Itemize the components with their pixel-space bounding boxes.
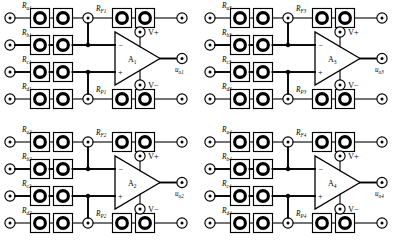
resistor-a2-b[interactable] — [54, 133, 73, 152]
supply-positive-terminal[interactable] — [335, 27, 345, 37]
resistor-a1-a[interactable] — [31, 9, 50, 28]
feedback-terminal[interactable] — [377, 137, 387, 147]
resistor-F1-a[interactable] — [113, 9, 132, 28]
input-terminal-d1[interactable] — [5, 94, 15, 104]
balance-terminal[interactable] — [377, 218, 387, 228]
input-terminal-c2[interactable] — [5, 191, 15, 201]
resistor-d1-a[interactable] — [31, 90, 50, 109]
resistor-c3-a[interactable] — [231, 63, 250, 82]
resistor-b2-b[interactable] — [54, 160, 73, 179]
supply-negative-label: V− — [148, 205, 159, 214]
resistor-P2-b[interactable] — [136, 214, 155, 233]
resistor-a4-b[interactable] — [254, 133, 273, 152]
resistor-F1-b[interactable] — [136, 9, 155, 28]
resistor-a2-a[interactable] — [31, 133, 50, 152]
supply-positive-terminal[interactable] — [135, 27, 145, 37]
balance-terminal[interactable] — [377, 94, 387, 104]
supply-negative-terminal[interactable] — [335, 204, 345, 214]
input-terminal-d2[interactable] — [5, 218, 15, 228]
resistor-a1-b[interactable] — [54, 9, 73, 28]
resistor-P1-b[interactable] — [136, 90, 155, 109]
resistor-d4-a[interactable] — [231, 214, 250, 233]
input-terminal-d3[interactable] — [205, 94, 215, 104]
node-terminal-bottom[interactable] — [83, 94, 93, 104]
input-terminal-a1[interactable] — [5, 13, 15, 23]
output-terminal[interactable] — [177, 53, 187, 63]
node-terminal-top[interactable] — [283, 13, 293, 23]
input-terminal-c3[interactable] — [205, 67, 215, 77]
feedback-terminal[interactable] — [377, 13, 387, 23]
input-terminal-c1[interactable] — [5, 67, 15, 77]
input-terminal-b2[interactable] — [5, 164, 15, 174]
resistor-F3-b[interactable] — [336, 9, 355, 28]
input-terminal-b3[interactable] — [205, 40, 215, 50]
inverting-input-sign: − — [119, 165, 124, 174]
output-terminal[interactable] — [177, 177, 187, 187]
label-resistor-P4: RP4 — [295, 209, 307, 219]
resistor-c3-b[interactable] — [254, 63, 273, 82]
supply-negative-terminal[interactable] — [135, 80, 145, 90]
resistor-c2-a[interactable] — [31, 187, 50, 206]
node-terminal-bottom[interactable] — [283, 94, 293, 104]
resistor-F2-a[interactable] — [113, 133, 132, 152]
resistor-d3-a[interactable] — [231, 90, 250, 109]
resistor-P2-a[interactable] — [113, 214, 132, 233]
resistor-c2-b[interactable] — [54, 187, 73, 206]
resistor-a3-b[interactable] — [254, 9, 273, 28]
output-terminal[interactable] — [377, 177, 387, 187]
resistor-c4-b[interactable] — [254, 187, 273, 206]
input-terminal-b4[interactable] — [205, 164, 215, 174]
output-terminal[interactable] — [377, 53, 387, 63]
resistor-b3-a[interactable] — [231, 36, 250, 55]
resistor-d2-a[interactable] — [31, 214, 50, 233]
resistor-c4-a[interactable] — [231, 187, 250, 206]
supply-negative-terminal[interactable] — [135, 204, 145, 214]
input-terminal-a2[interactable] — [5, 137, 15, 147]
input-terminal-a4[interactable] — [205, 137, 215, 147]
node-terminal-top[interactable] — [83, 137, 93, 147]
resistor-F2-b[interactable] — [136, 133, 155, 152]
resistor-F3-a[interactable] — [313, 9, 332, 28]
feedback-terminal[interactable] — [177, 13, 187, 23]
resistor-c1-b[interactable] — [54, 63, 73, 82]
resistor-a3-a[interactable] — [231, 9, 250, 28]
label-resistor-a3: Ra3 — [221, 1, 232, 11]
node-terminal-top[interactable] — [283, 137, 293, 147]
label-resistor-P2: RP2 — [95, 209, 107, 219]
resistor-d2-b[interactable] — [54, 214, 73, 233]
feedback-terminal[interactable] — [177, 137, 187, 147]
balance-terminal[interactable] — [177, 94, 187, 104]
resistor-a4-a[interactable] — [231, 133, 250, 152]
input-terminal-a3[interactable] — [205, 13, 215, 23]
resistor-F4-a[interactable] — [313, 133, 332, 152]
input-terminal-c4[interactable] — [205, 191, 215, 201]
resistor-F4-b[interactable] — [336, 133, 355, 152]
balance-terminal[interactable] — [177, 218, 187, 228]
resistor-d3-b[interactable] — [254, 90, 273, 109]
label-resistor-a4: Ra4 — [221, 125, 232, 135]
supply-negative-terminal[interactable] — [335, 80, 345, 90]
node-terminal-top[interactable] — [83, 13, 93, 23]
resistor-b3-b[interactable] — [254, 36, 273, 55]
resistor-P1-a[interactable] — [113, 90, 132, 109]
input-terminal-b1[interactable] — [5, 40, 15, 50]
node-terminal-bottom[interactable] — [83, 218, 93, 228]
supply-positive-terminal[interactable] — [335, 151, 345, 161]
resistor-b1-b[interactable] — [54, 36, 73, 55]
resistor-P3-b[interactable] — [336, 90, 355, 109]
resistor-b4-a[interactable] — [231, 160, 250, 179]
opamp-circuit-2: Ra2Rb2Rc2Rd2RF2RP2−+A2V+V−uo2 — [0, 124, 200, 248]
resistor-b1-a[interactable] — [31, 36, 50, 55]
resistor-P4-a[interactable] — [313, 214, 332, 233]
resistor-c1-a[interactable] — [31, 63, 50, 82]
resistor-d4-b[interactable] — [254, 214, 273, 233]
resistor-d1-b[interactable] — [54, 90, 73, 109]
input-terminal-d4[interactable] — [205, 218, 215, 228]
supply-positive-terminal[interactable] — [135, 151, 145, 161]
resistor-b4-b[interactable] — [254, 160, 273, 179]
resistor-P4-b[interactable] — [336, 214, 355, 233]
resistor-b2-a[interactable] — [31, 160, 50, 179]
node-terminal-bottom[interactable] — [283, 218, 293, 228]
output-voltage-label: uo1 — [175, 66, 184, 75]
resistor-P3-a[interactable] — [313, 90, 332, 109]
